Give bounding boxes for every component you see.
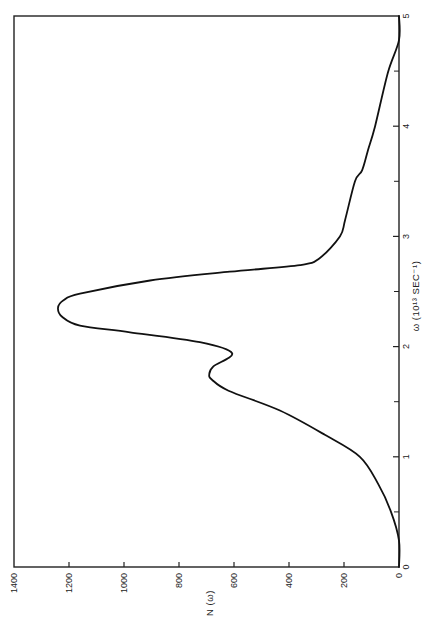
density-curve	[58, 16, 400, 567]
n-tick-label: 600	[229, 573, 239, 588]
omega-tick-label: 5	[401, 13, 411, 18]
plot-frame	[14, 16, 399, 567]
n-tick-label: 400	[284, 573, 294, 588]
omega-tick-label: 1	[401, 454, 411, 459]
omega-zero-label: 0	[401, 564, 411, 569]
phonon-density-chart: 0200400600800100012001400 123450 N (ω) ω…	[0, 0, 431, 619]
n-tick-label: 200	[339, 573, 349, 588]
omega-axis-label: ω (10¹³ SEC⁻¹)	[410, 261, 421, 332]
n-tick-label: 800	[174, 573, 184, 588]
omega-tick-label: 4	[401, 124, 411, 129]
n-tick-label: 1400	[9, 573, 19, 593]
n-tick-label: 1200	[64, 573, 74, 593]
omega-tick-label: 3	[401, 234, 411, 239]
frame-rect	[14, 16, 399, 567]
n-tick-label: 1000	[119, 573, 129, 593]
n-tick-label: 0	[394, 573, 404, 578]
omega-tick-label: 2	[401, 344, 411, 349]
n-axis-label: N (ω)	[204, 590, 215, 616]
omega-axis-ticks: 123450	[393, 13, 411, 569]
